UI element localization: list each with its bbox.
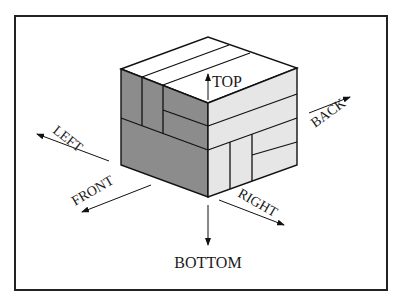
cube [121,37,297,197]
label-front: FRONT [69,172,117,208]
cube-orientation-diagram: TOP BOTTOM LEFT FRONT RIGHT BACK [0,0,398,303]
label-top: TOP [212,73,242,90]
label-back: BACK [308,95,348,130]
label-bottom: BOTTOM [174,254,241,271]
